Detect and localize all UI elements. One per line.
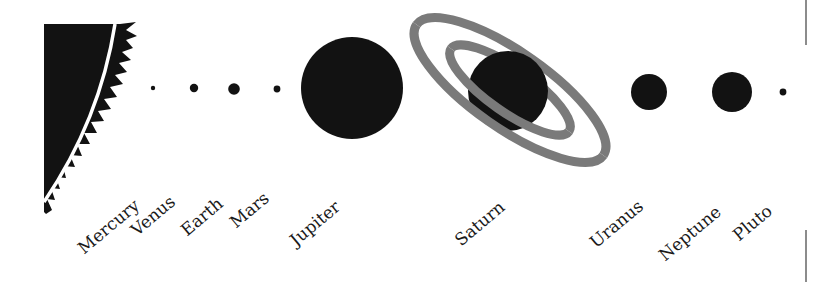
planet-venus bbox=[190, 84, 198, 92]
sun-body bbox=[44, 24, 115, 202]
planet-mercury bbox=[151, 86, 155, 90]
planet-saturn bbox=[395, 0, 625, 187]
sun bbox=[44, 22, 137, 214]
planet-pluto bbox=[780, 89, 787, 96]
planet-uranus bbox=[631, 74, 667, 110]
planet-earth bbox=[228, 83, 240, 95]
solar-system-diagram: Mercury Venus Earth Mars Jupiter Saturn … bbox=[0, 0, 822, 282]
planet-jupiter bbox=[301, 37, 403, 139]
planet-mars bbox=[274, 86, 281, 93]
planet-neptune bbox=[712, 72, 752, 112]
